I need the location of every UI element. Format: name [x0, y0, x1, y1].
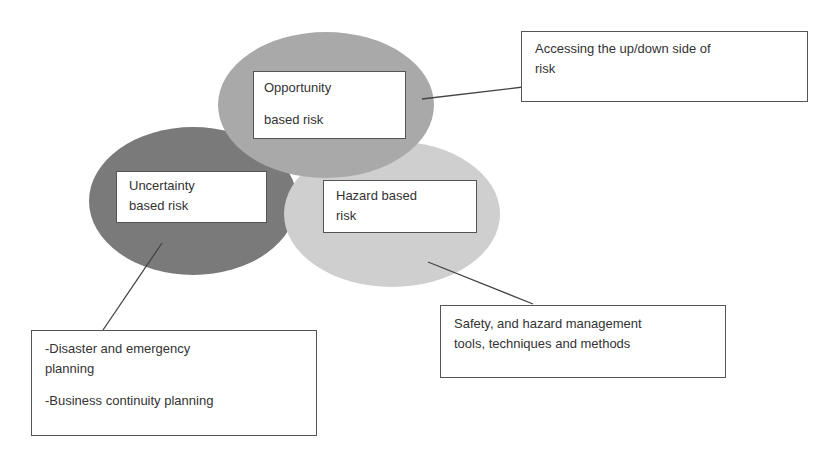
hazard-label: Hazard based risk [323, 180, 477, 233]
uncertainty-callout-item2: -Business continuity planning [45, 391, 303, 411]
opportunity-connector [422, 87, 523, 99]
opportunity-label-line1: Opportunity [264, 78, 395, 98]
opportunity-label-line2: based risk [264, 110, 395, 130]
uncertainty-callout-item1: -Disaster and emergency [45, 339, 303, 359]
uncertainty-callout-item1-cont: planning [45, 359, 303, 379]
uncertainty-label: Uncertainty based risk [116, 171, 267, 223]
hazard-callout-line1: Safety, and hazard management [454, 314, 712, 334]
opportunity-callout-line1: Accessing the up/down side of [535, 39, 794, 59]
uncertainty-callout: -Disaster and emergency planning -Busine… [31, 330, 317, 436]
hazard-label-line1: Hazard based [336, 186, 464, 206]
uncertainty-label-line1: Uncertainty [129, 176, 254, 196]
hazard-label-line2: risk [336, 206, 464, 226]
hazard-callout-line2: tools, techniques and methods [454, 334, 712, 354]
hazard-connector [428, 262, 533, 304]
opportunity-label: Opportunity based risk [253, 71, 406, 139]
opportunity-callout: Accessing the up/down side of risk [521, 31, 808, 102]
uncertainty-label-line2: based risk [129, 196, 254, 216]
opportunity-callout-line2: risk [535, 59, 794, 79]
hazard-callout: Safety, and hazard management tools, tec… [440, 305, 726, 378]
